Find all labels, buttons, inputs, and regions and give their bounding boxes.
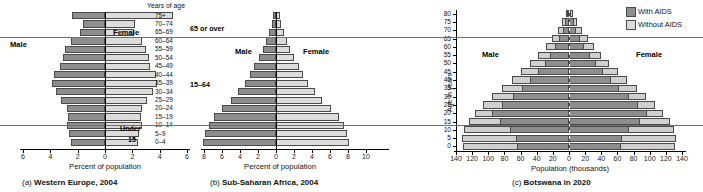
x-tick-label: 140 bbox=[673, 155, 691, 163]
panel-botswana: 8075706560555045403530252015105014014012… bbox=[440, 0, 703, 192]
bar-male bbox=[266, 37, 276, 44]
bar-male-with-aids bbox=[545, 60, 569, 67]
y-tick bbox=[453, 47, 456, 48]
y-tick-label: 10 bbox=[436, 126, 451, 133]
age-group-label: 65–69 bbox=[155, 28, 173, 35]
bar-female bbox=[276, 105, 331, 112]
bar-female bbox=[105, 80, 157, 87]
bar-female-with-aids bbox=[569, 126, 629, 133]
bar-male bbox=[245, 80, 277, 87]
age-group-label: 35–39 bbox=[155, 79, 173, 86]
y-tick-label: 5 bbox=[436, 134, 451, 141]
panel-caption: (b) Sub-Saharan Africa, 2004 bbox=[210, 178, 318, 187]
bar-female-with-aids bbox=[569, 118, 640, 125]
bar-female bbox=[276, 139, 349, 146]
x-tick-label: 6 bbox=[179, 153, 195, 161]
y-tick-label: 55 bbox=[436, 51, 451, 58]
y-tick-label: 0 bbox=[436, 142, 451, 149]
y-tick bbox=[453, 113, 456, 114]
y-tick-label: 80 bbox=[436, 10, 451, 17]
bar-male-with-aids bbox=[550, 52, 569, 59]
age-group-label: 5–9 bbox=[155, 130, 166, 137]
bar-female-with-aids bbox=[569, 35, 580, 42]
x-tick-label: 2 bbox=[70, 153, 86, 161]
x-tick-label: 4 bbox=[232, 153, 248, 161]
x-tick-label: 2 bbox=[124, 153, 140, 161]
age-axis-header: Years of age bbox=[147, 2, 185, 9]
y-axis-title: Age in years bbox=[446, 73, 453, 112]
bar-male bbox=[63, 54, 105, 61]
caption-index: (a) bbox=[22, 178, 34, 187]
bar-male bbox=[65, 46, 105, 53]
y-tick bbox=[453, 14, 456, 15]
bar-female bbox=[105, 71, 156, 78]
x-tick-label: 60 bbox=[608, 155, 626, 163]
x-tick-label: 2 bbox=[250, 153, 266, 161]
x-tick-label: 8 bbox=[196, 153, 212, 161]
bar-male-with-aids bbox=[516, 135, 569, 142]
y-tick bbox=[453, 55, 456, 56]
x-tick-label: 6 bbox=[15, 153, 31, 161]
age-group-label: 15–19 bbox=[155, 113, 173, 120]
bar-female bbox=[276, 88, 315, 95]
bar-male bbox=[238, 88, 276, 95]
bar-female bbox=[276, 130, 347, 137]
x-tick-label: 10 bbox=[358, 153, 374, 161]
bar-male bbox=[71, 139, 105, 146]
panel-western-europe: 6420246Percent of populationMaleFemaleUn… bbox=[0, 0, 215, 192]
caption-index: (c) bbox=[512, 178, 524, 187]
y-tick bbox=[453, 105, 456, 106]
bar-male bbox=[259, 54, 276, 61]
y-tick-label: 70 bbox=[436, 26, 451, 33]
bar-female bbox=[276, 71, 303, 78]
bar-female-with-aids bbox=[569, 60, 596, 67]
x-axis bbox=[201, 149, 389, 150]
x-tick-label: 6 bbox=[214, 153, 230, 161]
bar-male bbox=[222, 105, 276, 112]
age-group-label: 70–74 bbox=[155, 20, 173, 27]
caption-title: Sub-Saharan Africa, 2004 bbox=[222, 178, 318, 187]
bar-female-with-aids bbox=[569, 110, 647, 117]
working-age-label: 15–64 bbox=[190, 80, 210, 89]
legend-swatch-with-aids bbox=[626, 7, 636, 17]
male-label: Male bbox=[10, 40, 27, 49]
bar-female-with-aids bbox=[569, 135, 622, 142]
bar-male-with-aids bbox=[517, 143, 569, 150]
bar-female bbox=[105, 88, 153, 95]
bar-male bbox=[250, 71, 276, 78]
female-label: Female bbox=[636, 50, 662, 59]
bar-male bbox=[68, 113, 105, 120]
bar-female-with-aids bbox=[569, 27, 576, 34]
y-tick bbox=[453, 63, 456, 64]
bar-male-with-aids bbox=[538, 68, 569, 75]
panel-sub-saharan-africa: 86420246810Percent of populationMaleFema… bbox=[215, 0, 440, 192]
x-tick-label: 80 bbox=[625, 155, 643, 163]
center-axis bbox=[105, 12, 106, 149]
age-group-label: 20–24 bbox=[155, 104, 173, 111]
bar-male-with-aids bbox=[522, 85, 569, 92]
bar-female bbox=[276, 80, 308, 87]
age-group-label: 25–29 bbox=[155, 96, 173, 103]
y-tick bbox=[453, 88, 456, 89]
center-axis-dashed bbox=[569, 10, 570, 151]
age-group-label: 30–34 bbox=[155, 88, 173, 95]
bar-male-with-aids bbox=[502, 101, 569, 108]
bar-female-with-aids bbox=[569, 143, 621, 150]
bar-male bbox=[254, 63, 276, 70]
y-tick-label: 60 bbox=[436, 43, 451, 50]
bar-male bbox=[263, 46, 277, 53]
y-tick bbox=[453, 30, 456, 31]
age-group-label: 55–59 bbox=[155, 45, 173, 52]
x-tick-label: 8 bbox=[340, 153, 356, 161]
age-group-label: 75+ bbox=[155, 12, 166, 19]
x-tick-label: 100 bbox=[641, 155, 659, 163]
legend-label: With AIDS bbox=[638, 6, 672, 17]
x-tick-label: 4 bbox=[152, 153, 168, 161]
x-tick-label: 0 bbox=[268, 153, 284, 161]
bar-male-with-aids bbox=[513, 93, 570, 100]
x-tick-label: 40 bbox=[592, 155, 610, 163]
bar-female bbox=[105, 63, 150, 70]
bar-female bbox=[276, 46, 290, 53]
bar-female bbox=[105, 46, 146, 53]
bar-male bbox=[54, 71, 105, 78]
